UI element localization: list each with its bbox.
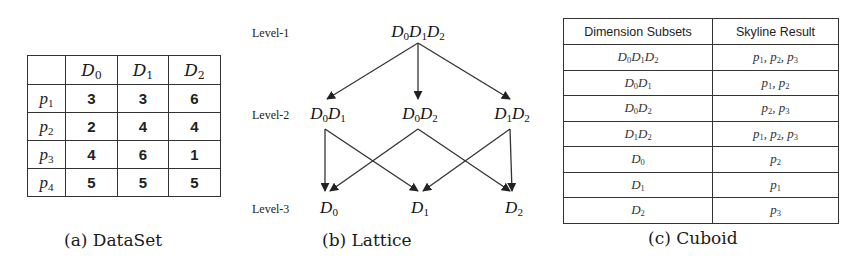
lattice-node-d1: D1 [411,198,429,218]
edge-arrow [418,43,510,99]
edge-arrow [510,129,512,191]
skyline-cell: p2, p3 [713,96,839,122]
subset-cell: D1 [564,172,713,198]
cuboid-row: D1 p1 [564,172,839,198]
cuboid-row: D1D2 p1, p2, p3 [564,121,839,147]
subsets-header: Dimension Subsets [564,19,713,45]
subset-cell: D1D2 [564,121,713,147]
cuboid-header-row: Dimension Subsets Skyline Result [564,19,839,45]
lattice-node-d1d2: D1D2 [494,104,530,124]
cuboid-table: Dimension Subsets Skyline Result D0D1D2 … [563,18,839,224]
lattice-node-d2: D2 [505,198,523,218]
level-2-label: Level-2 [252,108,289,123]
edge-arrow [327,43,418,99]
skyline-cell: p1, p2, p3 [713,45,839,71]
subset-cell: D0D1 [564,70,713,96]
skyline-cell: p3 [713,198,839,224]
lattice-caption: (b) Lattice [322,230,412,250]
lattice-node-d0d2: D0D2 [402,104,438,124]
subset-cell: D2 [564,198,713,224]
cuboid-row: D0 p2 [564,147,839,173]
skyline-header: Skyline Result [713,19,839,45]
lattice-node-d0d1: D0D1 [310,104,346,124]
cuboid-row: D2 p3 [564,198,839,224]
subset-cell: D0 [564,147,713,173]
skyline-cell: p1, p2, p3 [713,121,839,147]
cuboid-row: D0D2 p2, p3 [564,96,839,122]
lattice-node-d0d1d2: D0D1D2 [391,22,444,42]
subset-cell: D0D2 [564,96,713,122]
skyline-cell: p1, p2 [713,70,839,96]
skyline-cell: p2 [713,147,839,173]
subset-cell: D0D1D2 [564,45,713,71]
lattice-node-d0: D0 [320,198,338,218]
cuboid-row: D0D1D2 p1, p2, p3 [564,45,839,71]
skyline-cell: p1 [713,172,839,198]
level-3-label: Level-3 [252,202,289,217]
cuboid-caption: (c) Cuboid [648,228,738,248]
level-1-label: Level-1 [252,26,289,41]
cuboid-row: D0D1 p1, p2 [564,70,839,96]
